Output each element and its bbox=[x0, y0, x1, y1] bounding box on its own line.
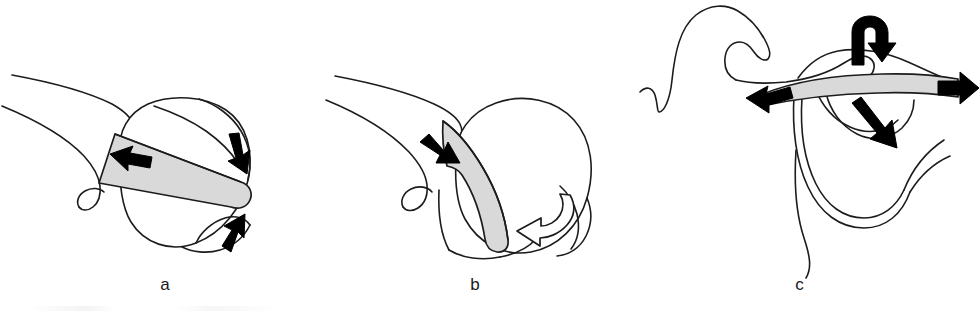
bone-lower-blade-a bbox=[2, 106, 100, 210]
lower-tail-c bbox=[795, 150, 809, 278]
bone-upper-blade-a bbox=[12, 75, 133, 139]
panel-c-caption: c bbox=[620, 276, 979, 293]
panel-b: b bbox=[310, 0, 640, 311]
panel-a-caption: a bbox=[0, 276, 330, 293]
inferior-sweep-c bbox=[910, 156, 950, 192]
arrow-inner-down-right-c bbox=[852, 97, 897, 148]
bone-lower-blade-b bbox=[326, 100, 427, 211]
lower-mass-inner-c bbox=[802, 97, 904, 218]
figure-root: a bbox=[0, 0, 979, 311]
panel-c-drawing bbox=[620, 0, 979, 311]
panel-a-drawing bbox=[0, 0, 330, 311]
neck-bundle-b-1 bbox=[439, 190, 449, 250]
panel-a: a bbox=[0, 0, 330, 311]
lower-mass-outer-c bbox=[794, 96, 910, 228]
inferior-sweep-inner-c bbox=[904, 140, 944, 190]
panel-b-caption: b bbox=[310, 276, 640, 293]
arrow-hook-top-c bbox=[852, 16, 896, 65]
arrow-band-left-c bbox=[746, 86, 793, 113]
bottom-cut-off-text-artifact bbox=[30, 306, 280, 311]
panel-c: c bbox=[620, 0, 979, 311]
panel-b-drawing bbox=[310, 0, 640, 311]
